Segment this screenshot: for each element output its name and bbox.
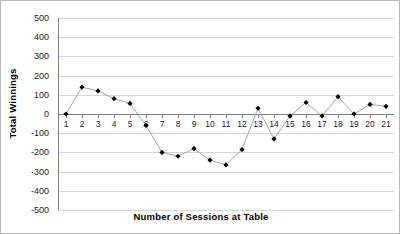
data-point-marker xyxy=(383,104,388,109)
data-point-marker xyxy=(255,106,260,111)
x-axis-title-text: Number of Sessions at Table xyxy=(133,211,268,222)
y-axis-tick-label: 200 xyxy=(15,71,49,81)
y-axis-tick-label: 400 xyxy=(15,32,49,42)
plot-area: 5004003002001000-100-200-300-400-500 123… xyxy=(58,18,394,210)
data-point-marker xyxy=(79,85,84,90)
data-series-line xyxy=(58,18,394,210)
y-axis-tick-label: -400 xyxy=(15,186,49,196)
data-point-marker xyxy=(63,111,68,116)
y-axis-tick-label: -200 xyxy=(15,147,49,157)
data-point-marker xyxy=(159,150,164,155)
data-point-marker xyxy=(111,96,116,101)
data-point-marker xyxy=(175,154,180,159)
chart-frame: Total Winnings 5004003002001000-100-200-… xyxy=(0,0,400,234)
y-axis-tick-label: 500 xyxy=(15,13,49,23)
y-axis-tick-label: 300 xyxy=(15,51,49,61)
data-point-marker xyxy=(271,136,276,141)
y-axis-tick-label: -300 xyxy=(15,167,49,177)
data-point-marker xyxy=(95,88,100,93)
y-axis-tick-label: 0 xyxy=(15,109,49,119)
y-axis-tick-label: 100 xyxy=(15,90,49,100)
x-axis-title: Number of Sessions at Table xyxy=(1,211,400,222)
y-axis-tick-label: -100 xyxy=(15,128,49,138)
data-point-marker xyxy=(367,102,372,107)
